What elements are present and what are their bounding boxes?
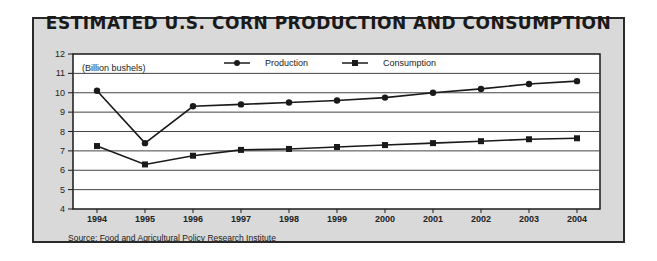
x-axis: 1994199519961997199819992000200120022003… xyxy=(87,209,587,224)
data-point xyxy=(526,81,532,87)
y-tick-label: 8 xyxy=(60,127,65,137)
data-point xyxy=(382,94,388,100)
data-point xyxy=(478,86,484,92)
y-tick-label: 12 xyxy=(55,49,65,59)
data-point xyxy=(574,78,580,84)
data-point xyxy=(430,90,436,96)
data-point xyxy=(190,103,196,109)
y-tick-label: 11 xyxy=(56,68,65,78)
x-tick-label: 1997 xyxy=(231,214,251,224)
x-tick-label: 2004 xyxy=(567,214,587,224)
x-tick-label: 1996 xyxy=(183,214,203,224)
data-point xyxy=(94,143,100,149)
data-point xyxy=(142,140,148,146)
square-marker-icon xyxy=(352,60,358,66)
data-point xyxy=(94,88,100,94)
x-tick-label: 2002 xyxy=(471,214,491,224)
data-point xyxy=(334,144,340,150)
data-point xyxy=(382,142,388,148)
circle-marker-icon xyxy=(234,60,240,66)
y-tick-label: 9 xyxy=(60,107,65,117)
source-note: Source: Food and Agricultural Policy Res… xyxy=(68,233,276,243)
data-point xyxy=(238,147,244,153)
data-point xyxy=(142,161,148,167)
data-point xyxy=(238,101,244,107)
y-tick-label: 7 xyxy=(60,146,65,156)
x-tick-label: 2003 xyxy=(519,214,539,224)
x-tick-label: 1995 xyxy=(135,214,155,224)
legend-label: Production xyxy=(265,58,308,68)
data-point xyxy=(190,153,196,159)
data-point xyxy=(430,140,436,146)
data-point xyxy=(286,146,292,152)
line-chart: 456789101112 199419951996199719981999200… xyxy=(0,0,657,261)
unit-label: (Billion bushels) xyxy=(82,63,146,73)
y-tick-label: 10 xyxy=(55,88,65,98)
x-tick-label: 2000 xyxy=(375,214,395,224)
y-tick-label: 5 xyxy=(60,185,65,195)
data-point xyxy=(334,97,340,103)
x-tick-label: 1994 xyxy=(87,214,107,224)
data-point xyxy=(286,99,292,105)
x-tick-label: 1998 xyxy=(279,214,299,224)
data-point xyxy=(574,135,580,141)
x-tick-label: 2001 xyxy=(423,214,443,224)
y-axis: 456789101112 xyxy=(55,49,73,214)
data-point xyxy=(526,136,532,142)
gridlines xyxy=(73,54,600,209)
x-tick-label: 1999 xyxy=(327,214,347,224)
legend-label: Consumption xyxy=(383,58,436,68)
y-tick-label: 6 xyxy=(60,165,65,175)
data-point xyxy=(478,138,484,144)
y-tick-label: 4 xyxy=(60,204,65,214)
